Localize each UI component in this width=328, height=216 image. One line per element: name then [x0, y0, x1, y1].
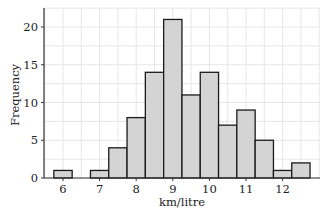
x-tick-label: 10: [202, 182, 217, 196]
histogram-bar: [237, 110, 255, 178]
histogram-chart: 05101520 6789101112 km/litre Frequency: [0, 0, 328, 216]
histogram-bar: [109, 148, 127, 178]
histogram-bars: [54, 19, 310, 178]
y-tick-label: 10: [23, 96, 38, 110]
x-tick-label: 9: [169, 182, 176, 196]
x-tick-label: 11: [239, 182, 254, 196]
y-tick-label: 5: [31, 133, 38, 147]
x-tick-label: 6: [59, 182, 66, 196]
histogram-bar: [127, 118, 145, 178]
histogram-bar: [164, 19, 182, 178]
histogram-bar: [292, 163, 310, 178]
histogram-bar: [255, 140, 273, 178]
y-axis-title: Frequency: [8, 63, 22, 126]
y-tick-label: 20: [23, 20, 38, 34]
x-tick-label: 12: [275, 182, 290, 196]
histogram-bar: [182, 95, 200, 178]
histogram-bar: [145, 72, 163, 178]
histogram-bar: [54, 170, 72, 178]
y-tick-label: 15: [23, 58, 38, 72]
y-axis-ticks: 05101520: [23, 20, 44, 185]
x-tick-label: 7: [96, 182, 103, 196]
x-axis-title: km/litre: [159, 195, 205, 209]
histogram-bar: [200, 72, 218, 178]
histogram-bar: [219, 125, 237, 178]
histogram-bar: [90, 170, 108, 178]
x-tick-label: 8: [133, 182, 140, 196]
histogram-bar: [273, 170, 291, 178]
y-tick-label: 0: [31, 171, 38, 185]
x-axis-ticks: 6789101112: [59, 178, 290, 196]
